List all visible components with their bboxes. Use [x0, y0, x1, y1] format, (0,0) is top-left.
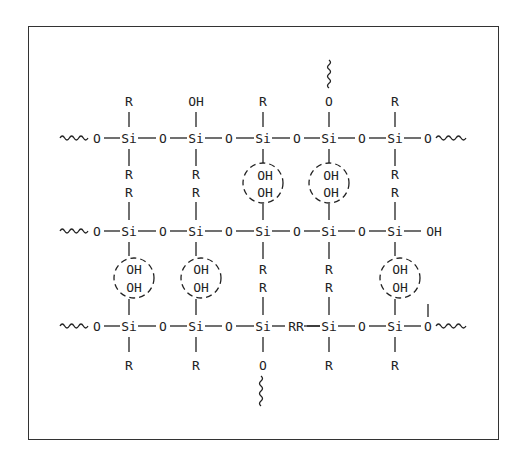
hydroxyl-group: OH — [257, 185, 273, 200]
r-group: R — [325, 280, 333, 295]
r-group: R — [391, 358, 399, 373]
silicon-atom: Si — [255, 131, 271, 146]
r-group: R — [192, 358, 200, 373]
oxygen-atom: O — [358, 224, 366, 239]
oxygen-atom: O — [93, 319, 101, 334]
silicon-atom: Si — [321, 319, 337, 334]
silicon-atom: Si — [387, 131, 403, 146]
siloxane-network-diagram: OSiOSiOSiOSiOSiOOSiOSiOSiOSiOSiOHOSiOSiO… — [0, 0, 523, 456]
r-group: R — [325, 262, 333, 277]
hydroxyl-group: OH — [426, 224, 442, 239]
hydroxyl-group: OH — [392, 280, 408, 295]
r-group: R — [125, 167, 133, 182]
oxygen-atom: O — [293, 131, 301, 146]
r-group: R — [125, 358, 133, 373]
rr-group: RR — [288, 319, 304, 334]
hydroxyl-group: OH — [188, 94, 204, 109]
silicon-atom: Si — [121, 224, 137, 239]
chain-end-wavy-icon — [328, 60, 331, 88]
chain-end-wavy-icon — [436, 136, 466, 140]
r-group: R — [125, 185, 133, 200]
r-group: R — [391, 167, 399, 182]
oxygen-atom: O — [159, 319, 167, 334]
silicon-atom: Si — [188, 131, 204, 146]
silicon-atom: Si — [387, 224, 403, 239]
oxygen-atom: O — [424, 131, 432, 146]
silicon-atom: Si — [121, 319, 137, 334]
oxygen-atom: O — [93, 131, 101, 146]
r-group: R — [259, 262, 267, 277]
r-group: R — [259, 94, 267, 109]
oxygen-atom: O — [225, 224, 233, 239]
hydroxyl-group: OH — [126, 280, 142, 295]
oxygen-atom: O — [358, 319, 366, 334]
hydroxyl-group: OH — [323, 168, 339, 183]
hydroxyl-group: OH — [257, 168, 273, 183]
silicon-atom: Si — [321, 224, 337, 239]
silicon-atom: Si — [321, 131, 337, 146]
hydroxyl-group: OH — [392, 262, 408, 277]
chain-end-wavy-icon — [260, 376, 263, 406]
oxygen-atom: O — [259, 358, 267, 373]
oxygen-atom: O — [225, 131, 233, 146]
r-group: R — [259, 280, 267, 295]
r-group: R — [325, 358, 333, 373]
oxygen-atom: O — [325, 94, 333, 109]
hydroxyl-group: OH — [126, 262, 142, 277]
hydroxyl-group: OH — [193, 262, 209, 277]
r-group: R — [192, 167, 200, 182]
silicon-atom: Si — [121, 131, 137, 146]
oxygen-atom: O — [159, 131, 167, 146]
oxygen-atom: O — [93, 224, 101, 239]
silicon-atom: Si — [255, 224, 271, 239]
r-group: R — [391, 185, 399, 200]
chain-end-wavy-icon — [436, 324, 466, 328]
oxygen-atom: O — [225, 319, 233, 334]
chain-end-wavy-icon — [60, 229, 88, 233]
hydroxyl-group: OH — [193, 280, 209, 295]
chain-end-wavy-icon — [60, 324, 88, 328]
silicon-atom: Si — [188, 224, 204, 239]
oxygen-atom: O — [293, 224, 301, 239]
r-group: R — [125, 94, 133, 109]
silicon-atom: Si — [255, 319, 271, 334]
r-group: R — [391, 94, 399, 109]
r-group: R — [192, 185, 200, 200]
silicon-atom: Si — [188, 319, 204, 334]
hydroxyl-group: OH — [323, 185, 339, 200]
oxygen-atom: O — [159, 224, 167, 239]
oxygen-atom: O — [358, 131, 366, 146]
oxygen-atom: O — [424, 319, 432, 334]
chain-end-wavy-icon — [60, 136, 88, 140]
silicon-atom: Si — [387, 319, 403, 334]
